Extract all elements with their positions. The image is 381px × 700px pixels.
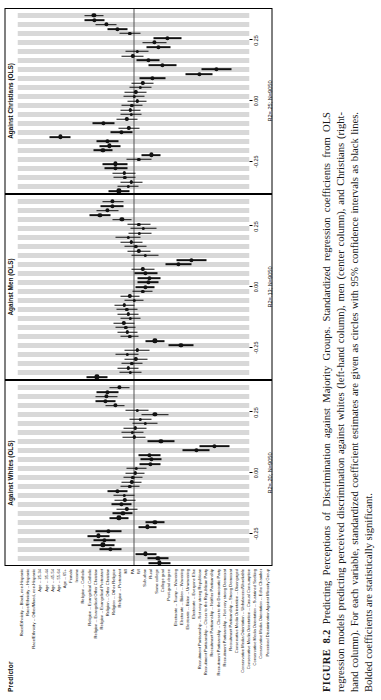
estimate-marker	[17, 390, 249, 394]
coefficient-point	[105, 139, 109, 143]
predictor-label: Religion -- Protestant	[116, 566, 122, 694]
coefficient-point	[127, 126, 130, 129]
coefficient-point	[125, 117, 128, 120]
estimate-marker	[17, 502, 249, 506]
coefficient-point	[94, 375, 98, 379]
rotated-figure-canvas: Predictor Race/Ethnicity -- Black, non-H…	[0, 0, 381, 700]
panel-christians: Against Christians (OLS)-0.250.000.25R2=…	[4, 8, 272, 194]
estimate-marker	[17, 85, 249, 89]
estimate-marker	[17, 171, 249, 175]
estimate-marker	[17, 439, 249, 443]
coefficient-point	[152, 339, 156, 343]
estimate-marker	[17, 117, 249, 121]
estimate-marker	[17, 435, 249, 439]
coefficient-point	[146, 59, 150, 63]
coefficient-point	[105, 390, 109, 394]
coefficient-point	[126, 366, 129, 369]
coefficient-point	[129, 104, 132, 107]
predictor-label: Income	[73, 566, 79, 694]
estimate-marker	[17, 294, 249, 298]
coefficient-point	[119, 130, 123, 134]
estimate-marker	[17, 72, 249, 76]
estimate-marker	[17, 108, 249, 112]
coefficient-point	[197, 72, 201, 76]
coefficient-point	[189, 258, 193, 262]
estimate-marker	[17, 352, 249, 356]
coefficient-point	[132, 435, 135, 438]
estimate-marker	[17, 157, 249, 161]
coefficient-point	[123, 176, 126, 179]
estimate-marker	[17, 339, 249, 343]
coefficient-point	[131, 54, 134, 57]
estimate-marker	[17, 285, 249, 289]
estimate-marker	[17, 180, 249, 184]
estimate-marker	[17, 484, 249, 488]
predictor-label: PA	[129, 566, 135, 694]
plot-area	[17, 195, 249, 379]
estimate-marker	[17, 262, 249, 266]
coefficient-point	[128, 485, 131, 488]
coefficient-point	[100, 543, 104, 547]
estimate-marker	[17, 139, 249, 143]
predictor-label: WI	[135, 566, 141, 694]
coefficient-point	[107, 144, 111, 148]
predictor-label-list: Race/Ethnicity -- Black, non-HispanicRac…	[18, 566, 270, 694]
estimate-marker	[17, 244, 249, 248]
coefficient-point	[129, 113, 132, 116]
estimate-marker	[17, 385, 249, 389]
coefficient-point	[150, 76, 154, 80]
estimate-marker	[17, 213, 249, 217]
coefficient-point	[132, 95, 135, 98]
estimate-marker	[17, 76, 249, 80]
estimate-marker	[17, 325, 249, 329]
plot-area	[17, 9, 249, 193]
coefficient-point	[143, 552, 147, 556]
estimate-marker	[17, 54, 249, 58]
predictor-label: Race/Ethnicity -- Black, non-Hispanic	[18, 566, 24, 694]
estimate-marker	[17, 153, 249, 157]
predictor-label: Recruitment Partisanship -- Not very str…	[196, 566, 202, 694]
coefficient-point	[178, 343, 182, 347]
estimate-marker	[17, 330, 249, 334]
coefficient-point	[101, 121, 105, 125]
estimate-marker	[17, 126, 249, 130]
estimate-marker	[17, 184, 249, 188]
estimate-marker	[17, 489, 249, 493]
axis-tick-label: -0.25	[252, 155, 258, 167]
coefficient-point	[152, 413, 156, 417]
coefficient-point	[135, 348, 138, 351]
predictor-label: Age -- 25-34	[36, 566, 42, 694]
estimate-marker	[17, 27, 249, 31]
estimate-marker	[17, 538, 249, 542]
estimate-marker	[17, 525, 249, 529]
coefficient-point	[137, 249, 140, 252]
estimate-marker	[17, 280, 249, 284]
panel-whites: Against Whites (OLS)-0.250.000.25R2=.20;…	[4, 380, 272, 566]
coefficient-point	[122, 171, 125, 174]
estimate-marker	[17, 99, 249, 103]
coefficient-point	[165, 36, 169, 40]
estimate-marker	[17, 58, 249, 62]
estimate-marker	[17, 375, 249, 379]
x-axis: -0.250.000.25	[249, 381, 261, 565]
coefficient-point	[119, 218, 123, 222]
estimate-marker	[17, 516, 249, 520]
coefficient-point	[143, 422, 146, 425]
coefficient-point	[106, 529, 110, 533]
coefficient-point	[147, 276, 151, 280]
coefficient-point	[113, 166, 117, 170]
coefficient-point	[138, 86, 141, 89]
predictor-label: Perceived Discrimination Against Minorit…	[264, 566, 270, 694]
estimate-marker	[17, 204, 249, 208]
x-axis: -0.250.000.25	[249, 195, 261, 379]
coefficient-point	[113, 162, 117, 166]
coefficient-point	[129, 240, 132, 243]
panel-men: Against Men (OLS)-0.250.000.25R2=.13; N=…	[4, 194, 272, 380]
coefficient-point	[122, 321, 125, 324]
coefficient-point	[140, 267, 143, 270]
estimate-marker	[17, 81, 249, 85]
panel-r2-label: R2=.20; N=9050	[266, 381, 272, 565]
estimate-marker	[17, 208, 249, 212]
predictor-label: Post-grad degree	[165, 566, 171, 694]
estimate-marker	[17, 49, 249, 53]
